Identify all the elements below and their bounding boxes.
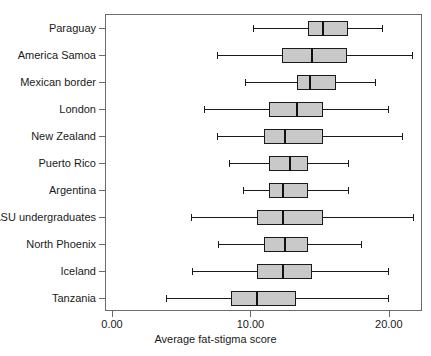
median-line xyxy=(311,48,313,63)
whisker-cap-min xyxy=(192,268,193,275)
box-rect xyxy=(308,21,348,36)
median-line xyxy=(296,102,298,117)
x-axis-tick xyxy=(112,311,113,317)
category-axis: ParaguayAmerica SamoaMexican borderLondo… xyxy=(0,14,105,311)
whisker-cap-max xyxy=(348,160,349,167)
x-axis-tick-label: 20.00 xyxy=(375,318,403,330)
whisker-cap-max xyxy=(402,133,403,140)
boxplot-series xyxy=(106,180,421,202)
whisker-cap-min xyxy=(243,187,244,194)
whisker-cap-min xyxy=(218,241,219,248)
median-line xyxy=(289,156,291,171)
whisker-cap-max xyxy=(361,241,362,248)
whisker-cap-max xyxy=(412,52,413,59)
whisker-cap-max xyxy=(388,106,389,113)
category-label: Paraguay xyxy=(49,21,96,35)
x-axis-tick xyxy=(389,311,390,317)
whisker-cap-max xyxy=(413,214,414,221)
x-axis-tick xyxy=(250,311,251,317)
category-label: Mexican border xyxy=(20,75,96,89)
whisker-cap-min xyxy=(204,106,205,113)
median-line xyxy=(256,291,258,306)
whisker-cap-max xyxy=(388,295,389,302)
median-line xyxy=(322,21,324,36)
boxplot-series xyxy=(106,99,421,121)
boxplot-series xyxy=(106,153,421,175)
whisker-cap-max xyxy=(382,25,383,32)
box-rect xyxy=(269,183,308,198)
category-label: Puerto Rico xyxy=(39,156,96,170)
box-rect xyxy=(297,75,336,90)
boxplot-series xyxy=(106,288,421,310)
category-label: ASU undergraduates xyxy=(0,210,96,224)
whisker-cap-min xyxy=(191,214,192,221)
median-line xyxy=(282,210,284,225)
whisker-cap-min xyxy=(166,295,167,302)
box-rect xyxy=(264,129,324,144)
category-label: America Samoa xyxy=(18,48,96,62)
box-rect xyxy=(231,291,296,306)
boxplot-series xyxy=(106,18,421,40)
category-label: Iceland xyxy=(61,264,96,278)
median-line xyxy=(282,264,284,279)
whisker-cap-max xyxy=(388,268,389,275)
boxplot-series xyxy=(106,261,421,283)
box-rect xyxy=(282,48,347,63)
category-label: London xyxy=(59,102,96,116)
whisker-cap-min xyxy=(229,160,230,167)
boxplot-series xyxy=(106,234,421,256)
whisker-cap-min xyxy=(245,79,246,86)
x-axis-tick-label: 0.00 xyxy=(101,318,122,330)
boxplot-series xyxy=(106,45,421,67)
boxplot-chart: ParaguayAmerica SamoaMexican borderLondo… xyxy=(0,0,431,356)
whisker-cap-max xyxy=(375,79,376,86)
plot-area xyxy=(105,14,422,311)
whisker-cap-max xyxy=(348,187,349,194)
category-label: North Phoenix xyxy=(26,237,96,251)
box-rect xyxy=(264,237,308,252)
box-rect xyxy=(257,264,312,279)
category-label: New Zealand xyxy=(31,129,96,143)
category-label: Argentina xyxy=(49,183,96,197)
category-label: Tanzania xyxy=(52,291,96,305)
boxplot-series xyxy=(106,126,421,148)
median-line xyxy=(309,75,311,90)
boxplot-series xyxy=(106,207,421,229)
median-line xyxy=(282,183,284,198)
whisker-cap-min xyxy=(217,133,218,140)
x-axis-tick-label: 10.00 xyxy=(237,318,265,330)
x-axis-title: Average fat-stigma score xyxy=(0,333,431,345)
whisker-cap-min xyxy=(217,52,218,59)
median-line xyxy=(284,237,286,252)
boxplot-series xyxy=(106,72,421,94)
median-line xyxy=(284,129,286,144)
box-rect xyxy=(257,210,323,225)
whisker-cap-min xyxy=(253,25,254,32)
x-axis: 0.0010.0020.00 xyxy=(105,311,422,335)
